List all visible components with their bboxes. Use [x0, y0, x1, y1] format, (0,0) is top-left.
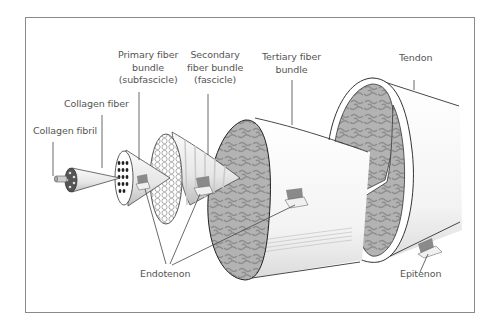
label-epitenon: Epitenon [400, 268, 441, 281]
label-collagen-fiber: Collagen fiber [64, 98, 129, 111]
label-primary-fiber-bundle: Primary fiber bundle (subfascicle) [118, 49, 178, 87]
label-secondary-fiber-bundle: Secondary fiber bundle (fascicle) [187, 49, 243, 87]
label-tendon: Tendon [399, 52, 432, 65]
label-endotenon: Endotenon [140, 268, 190, 281]
collagen-fibril-shape [54, 176, 67, 182]
label-collagen-fibril: Collagen fibril [33, 125, 97, 138]
collagen-fiber-shape [65, 168, 120, 192]
label-tertiary-fiber-bundle: Tertiary fiber bundle [262, 51, 321, 76]
